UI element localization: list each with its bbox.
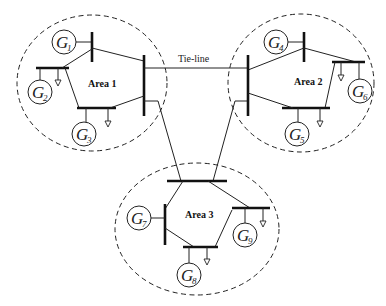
line-area1-area3 [144, 101, 181, 181]
line-g1bus-mainbus1 [92, 48, 144, 61]
generator-subscript: 7 [142, 219, 147, 229]
generator-subscript: 8 [192, 276, 197, 286]
load-arrow-icon [204, 259, 210, 265]
generator-subscript: 6 [363, 92, 368, 102]
line-g9bus-g8bus [215, 210, 232, 247]
area-1-label: Area 1 [88, 78, 116, 89]
generators: G1G2G3G4G5G6G7G8G9 [28, 30, 372, 287]
load-arrow-icon [105, 121, 111, 127]
generator-g3-icon: G3 [72, 122, 96, 146]
load-arrow-icon [260, 221, 266, 227]
line-mainbus3-g7bus [165, 181, 183, 209]
generator-g1-icon: G1 [52, 30, 76, 54]
generator-g4-icon: G4 [264, 30, 288, 54]
line-g7bus-g8bus [165, 228, 194, 247]
line-g2bus-g3bus [65, 68, 79, 108]
generator-subscript: 5 [300, 135, 305, 145]
area-3-label: Area 3 [185, 209, 213, 220]
line-mainbus3-g9bus [208, 181, 250, 208]
load-arrow-icon [317, 121, 323, 127]
area-3: Area 3 [151, 181, 270, 265]
line-g6bus-g5bus [325, 62, 335, 108]
generator-subscript: 3 [86, 135, 92, 145]
generator-g2-icon: G2 [28, 80, 52, 104]
generator-g8-icon: G8 [177, 263, 201, 287]
load-arrow-icon [55, 80, 61, 86]
generator-g5-icon: G5 [285, 122, 309, 146]
tie-line-label: Tie-line [178, 53, 210, 64]
line-g4bus-g6bus [304, 48, 356, 62]
generator-g7-icon: G7 [127, 206, 151, 230]
area-2-label: Area 2 [294, 76, 322, 87]
generator-g9-icon: G9 [233, 223, 257, 247]
generator-subscript: 2 [43, 93, 48, 103]
power-system-diagram: Area 1 Tie-line Area 2 [0, 0, 386, 306]
area-1: Area 1 [36, 32, 144, 127]
line-g3bus-mainbus1 [110, 96, 144, 108]
generator-subscript: 9 [248, 236, 253, 246]
load-arrow-icon [338, 75, 344, 81]
generator-subscript: 1 [67, 43, 72, 53]
generator-subscript: 4 [279, 43, 284, 53]
generator-g6-icon: G6 [348, 79, 372, 103]
line-mainbus2-g5bus [248, 93, 293, 108]
